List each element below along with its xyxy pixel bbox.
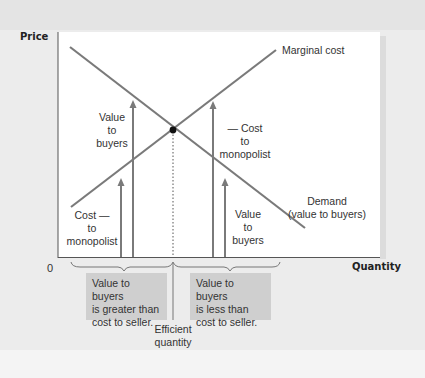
right-cost-label: — Cost to monopolist bbox=[216, 122, 274, 161]
callout-line: Value to buyers bbox=[196, 277, 265, 303]
label-line: monopolist bbox=[64, 235, 120, 248]
efficient-quantity-label: Efficient quantity bbox=[150, 323, 196, 349]
right-brace bbox=[173, 262, 280, 271]
callout-right: Value to buyers is less than cost to sel… bbox=[190, 273, 271, 320]
label-line: monopolist bbox=[216, 148, 274, 161]
callout-line: cost to seller. bbox=[196, 316, 265, 329]
right-value-label: Value to buyers bbox=[228, 208, 268, 247]
label-line: quantity bbox=[150, 336, 196, 349]
label-line: Cost — bbox=[64, 209, 120, 222]
callout-line: is greater than bbox=[92, 303, 161, 316]
label-line: to bbox=[228, 221, 268, 234]
callout-line: Value to buyers bbox=[92, 277, 161, 303]
label-line: Efficient bbox=[150, 323, 196, 336]
label-line: buyers bbox=[228, 234, 268, 247]
label-line: Value bbox=[228, 208, 268, 221]
demand-label-line1: Demand bbox=[282, 195, 372, 208]
left-value-label: Value to buyers bbox=[92, 111, 132, 150]
label-line: — Cost bbox=[216, 122, 274, 135]
origin-label: 0 bbox=[47, 262, 53, 274]
y-axis-label: Price bbox=[20, 31, 48, 42]
marginal-cost-label: Marginal cost bbox=[282, 44, 344, 57]
label-line: to bbox=[64, 222, 120, 235]
left-brace bbox=[71, 262, 173, 271]
label-line: to bbox=[92, 124, 132, 137]
callout-line: is less than bbox=[196, 303, 265, 316]
label-line: to bbox=[216, 135, 274, 148]
callout-left: Value to buyers is greater than cost to … bbox=[86, 273, 167, 320]
x-axis-label: Quantity bbox=[352, 261, 401, 272]
label-line: Value bbox=[92, 111, 132, 124]
equilibrium-dot bbox=[170, 127, 177, 134]
left-cost-label: Cost — to monopolist bbox=[64, 209, 120, 248]
demand-label-line2: (value to buyers) bbox=[282, 208, 372, 221]
demand-label: Demand (value to buyers) bbox=[282, 195, 372, 221]
label-line: buyers bbox=[92, 137, 132, 150]
